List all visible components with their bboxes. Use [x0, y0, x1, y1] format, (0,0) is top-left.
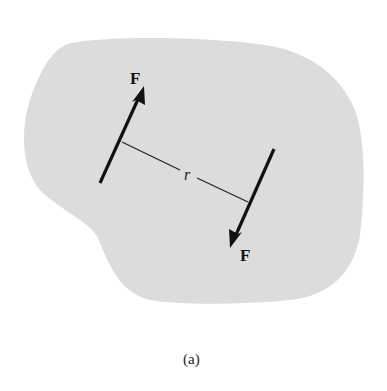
rigid-body-shape [24, 38, 364, 304]
moment-arm-label: r [184, 166, 191, 183]
figure-caption: (a) [183, 351, 200, 368]
force-label-2: F [240, 246, 250, 265]
force-label-1: F [130, 69, 140, 88]
couple-diagram: r F F (a) [0, 0, 387, 391]
